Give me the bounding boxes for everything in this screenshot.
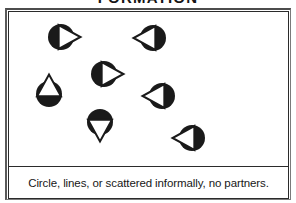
dancer-token: [173, 125, 206, 151]
formation-stage: [9, 12, 288, 166]
formation-svg: [9, 12, 288, 166]
page-title: FORMATION: [0, 0, 296, 7]
figure-caption: Circle, lines, or scattered informally, …: [9, 167, 288, 198]
formation-diagram-page: FORMATION Circle, lines, or scattered in…: [0, 0, 296, 203]
dancer-token: [143, 83, 176, 109]
dancer-token: [87, 109, 113, 142]
dancer-token: [36, 75, 62, 108]
dancer-token: [134, 25, 167, 51]
dancer-token: [91, 61, 124, 87]
dancer-token: [48, 24, 81, 50]
